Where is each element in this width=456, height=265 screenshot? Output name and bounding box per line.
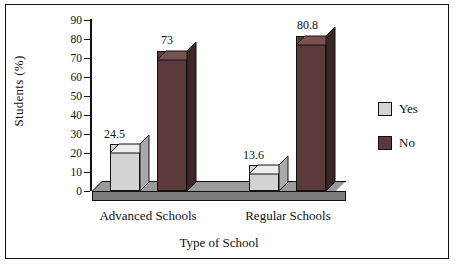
bar-advanced-yes <box>110 144 140 191</box>
value-label-advanced-no: 73 <box>161 33 173 48</box>
y-axis-tick-labels: 90 80 70 60 50 40 30 20 10 0 <box>54 5 82 260</box>
y-tick-label: 20 <box>54 148 82 158</box>
legend-label-yes: Yes <box>399 101 418 117</box>
legend-swatch-yes <box>378 102 392 116</box>
y-tick-mark <box>84 77 90 78</box>
x-axis-title: Type of School <box>90 235 348 251</box>
y-tick-label: 10 <box>54 167 82 177</box>
value-label-regular-yes: 13.6 <box>243 148 264 163</box>
bar-top-face <box>249 165 279 174</box>
bar-side-face <box>279 165 288 191</box>
x-tick-label-advanced: Advanced Schools <box>88 208 208 224</box>
y-tick-label: 90 <box>54 15 82 25</box>
y-axis-line <box>90 19 92 191</box>
y-axis-title: Students (%) <box>11 16 27 166</box>
y-tick-mark <box>84 153 90 154</box>
y-tick-label: 30 <box>54 129 82 139</box>
y-tick-mark <box>84 134 90 135</box>
bar-advanced-no <box>157 51 187 191</box>
y-tick-label: 50 <box>54 91 82 101</box>
value-label-regular-no: 80.8 <box>297 18 318 33</box>
bar-front <box>296 36 326 191</box>
bar-front <box>157 51 187 191</box>
y-tick-mark <box>84 20 90 21</box>
legend-label-no: No <box>399 135 415 151</box>
y-tick-label: 60 <box>54 72 82 82</box>
legend-item-no: No <box>378 135 442 151</box>
legend: Yes No <box>378 101 442 169</box>
y-tick-mark <box>84 115 90 116</box>
y-tick-label: 0 <box>54 186 82 196</box>
y-tick-mark <box>84 58 90 59</box>
bar-side-face <box>140 144 149 191</box>
y-tick-mark <box>84 172 90 173</box>
bar-regular-yes <box>249 165 279 191</box>
legend-swatch-no <box>378 136 392 150</box>
y-tick-mark <box>84 39 90 40</box>
y-tick-label: 70 <box>54 53 82 63</box>
y-tick-mark <box>84 96 90 97</box>
bar-top-face <box>296 36 326 45</box>
bar-top-face <box>110 144 140 153</box>
legend-item-yes: Yes <box>378 101 442 117</box>
chart-floor-front <box>92 191 346 201</box>
bar-side-face <box>187 51 196 191</box>
y-tick-mark <box>84 191 90 192</box>
x-tick-label-regular: Regular Schools <box>228 208 348 224</box>
y-tick-label: 40 <box>54 110 82 120</box>
y-tick-label: 80 <box>54 34 82 44</box>
bar-top-face <box>157 51 187 60</box>
bar-regular-no <box>296 36 326 191</box>
value-label-advanced-yes: 24.5 <box>104 127 125 142</box>
bar-side-face <box>326 36 335 191</box>
chart-frame: 90 80 70 60 50 40 30 20 10 0 Students (%… <box>5 4 449 259</box>
